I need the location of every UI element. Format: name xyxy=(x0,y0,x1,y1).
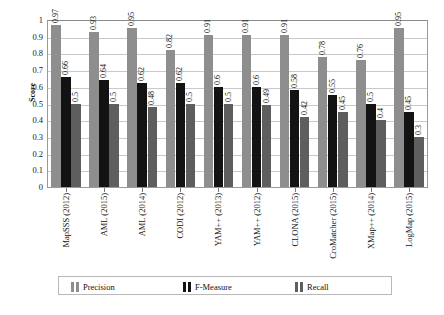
legend-label: Precision xyxy=(83,282,115,292)
bar-group: 0.930.640.5 xyxy=(89,20,119,187)
legend-swatch-icon xyxy=(183,282,192,292)
bar: 0.91 xyxy=(242,35,252,187)
bar-value-label: 0.78 xyxy=(318,41,327,55)
bar-value-label: 0.62 xyxy=(175,67,184,81)
legend-label: Recall xyxy=(307,282,329,292)
y-axis-tick-label: 0.7 xyxy=(16,66,43,74)
bar: 0.76 xyxy=(356,60,366,187)
chart-legend: PrecisionF-MeasureRecall xyxy=(58,276,392,295)
y-axis-tick-label: 0.3 xyxy=(16,133,43,141)
x-axis-label-text: YAM++ (2013) xyxy=(214,193,223,246)
x-axis-label-text: LogMap (2015) xyxy=(404,193,413,247)
x-axis-label-text: CLONA (2015) xyxy=(290,193,299,247)
y-axis-tick-label: 1 xyxy=(16,16,43,24)
x-axis-tick xyxy=(104,188,105,192)
bar: 0.6 xyxy=(214,87,224,187)
x-axis-label-text: AML (2014) xyxy=(138,193,147,236)
bar-group: 0.970.660.5 xyxy=(51,20,81,187)
bar-value-label: 0.5 xyxy=(109,92,118,102)
bar-group: 0.910.60.5 xyxy=(204,20,234,187)
bar-value-label: 0.82 xyxy=(165,34,174,48)
x-axis-tick xyxy=(371,188,372,192)
bar-value-label: 0.42 xyxy=(300,101,309,115)
y-axis-tick-label: 0.6 xyxy=(16,83,43,91)
bar: 0.97 xyxy=(51,25,61,187)
legend-label: F-Measure xyxy=(195,282,232,292)
x-axis-tick xyxy=(180,188,181,192)
legend-item[interactable]: Recall xyxy=(295,281,329,292)
x-axis-tick xyxy=(295,188,296,192)
bar-chart: Score 10.90.80.70.60.50.40.30.20.10 0.97… xyxy=(0,0,444,315)
bar: 0.62 xyxy=(176,83,186,187)
bar-value-label: 0.91 xyxy=(203,19,212,33)
x-axis-label: CLONA (2015) xyxy=(289,193,301,265)
y-axis-tick-label: 0.9 xyxy=(16,33,43,41)
legend-swatch-icon xyxy=(71,282,80,292)
bar: 0.48 xyxy=(148,107,158,187)
legend-swatch-icon xyxy=(295,282,304,292)
bar-value-label: 0.5 xyxy=(366,92,375,102)
bar: 0.95 xyxy=(127,28,137,187)
bar: 0.45 xyxy=(404,112,414,187)
bar-group: 0.780.550.45 xyxy=(318,20,348,187)
bar-value-label: 0.95 xyxy=(394,12,403,26)
bars-layer: 0.970.660.50.930.640.50.950.620.480.820.… xyxy=(47,20,428,187)
x-axis-label-text: CODI (2012) xyxy=(176,193,185,239)
x-axis-label: AML (2015) xyxy=(98,193,110,265)
bar-value-label: 0.55 xyxy=(328,79,337,93)
y-axis-tick-label: 0.8 xyxy=(16,49,43,57)
bar: 0.58 xyxy=(290,90,300,187)
x-axis-tick xyxy=(218,188,219,192)
x-axis-category-labels: MapSSS (2012)AML (2015)AML (2014)CODI (2… xyxy=(47,193,428,265)
bar: 0.5 xyxy=(186,104,196,188)
bar: 0.91 xyxy=(204,35,214,187)
bar-value-label: 0.5 xyxy=(224,92,233,102)
bar: 0.95 xyxy=(394,28,404,187)
y-axis-tick-label: 0.1 xyxy=(16,166,43,174)
bar-group: 0.950.620.48 xyxy=(127,20,157,187)
bar: 0.5 xyxy=(71,104,81,188)
x-axis-tick xyxy=(66,188,67,192)
x-axis-label: YAM++ (2012) xyxy=(251,193,263,265)
bar: 0.49 xyxy=(262,105,272,187)
bar-value-label: 0.58 xyxy=(290,74,299,88)
bar-group: 0.760.50.4 xyxy=(356,20,386,187)
bar-value-label: 0.48 xyxy=(147,91,156,105)
y-axis-tick-label: 0.2 xyxy=(16,150,43,158)
bar-value-label: 0.45 xyxy=(404,96,413,110)
x-axis-label: LogMap (2015) xyxy=(403,193,415,265)
x-axis-label-text: YAM++ (2012) xyxy=(252,193,261,246)
bar-value-label: 0.5 xyxy=(71,92,80,102)
bar: 0.5 xyxy=(224,104,234,188)
x-axis-tick xyxy=(409,188,410,192)
bar: 0.3 xyxy=(414,137,424,187)
x-axis-label-text: CroMatcher (2015) xyxy=(328,193,337,259)
legend-item[interactable]: F-Measure xyxy=(183,281,232,292)
bar-value-label: 0.62 xyxy=(137,67,146,81)
bar: 0.5 xyxy=(109,104,119,188)
bar-value-label: 0.64 xyxy=(99,64,108,78)
bar: 0.4 xyxy=(376,120,386,187)
x-axis-label: YAM++ (2013) xyxy=(212,193,224,265)
bar: 0.62 xyxy=(137,83,147,187)
y-axis-tick-label: 0.4 xyxy=(16,116,43,124)
y-axis-tick-label: 0 xyxy=(16,183,43,191)
bar: 0.91 xyxy=(280,35,290,187)
x-axis-label-text: MapSSS (2012) xyxy=(62,193,71,248)
bar-value-label: 0.6 xyxy=(252,75,261,85)
x-axis-label: CroMatcher (2015) xyxy=(327,193,339,265)
bar: 0.82 xyxy=(166,50,176,187)
y-axis-tick-label: 0.5 xyxy=(16,100,43,108)
bar-group: 0.910.580.42 xyxy=(280,20,310,187)
bar: 0.5 xyxy=(366,104,376,188)
bar: 0.42 xyxy=(300,117,310,187)
x-axis-label: MapSSS (2012) xyxy=(60,193,72,265)
x-axis-label-text: XMap++ (2014) xyxy=(366,193,375,249)
bar: 0.45 xyxy=(338,112,348,187)
legend-item[interactable]: Precision xyxy=(71,281,115,292)
bar: 0.64 xyxy=(99,80,109,187)
x-axis-label: XMap++ (2014) xyxy=(365,193,377,265)
bar-value-label: 0.5 xyxy=(185,92,194,102)
bar-value-label: 0.3 xyxy=(414,125,423,135)
bar-value-label: 0.6 xyxy=(213,75,222,85)
